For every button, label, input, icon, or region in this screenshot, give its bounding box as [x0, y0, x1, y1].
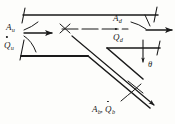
- upstream-flow-leader: [24, 36, 36, 52]
- label-branch-angle: θ: [148, 60, 152, 69]
- downstream-flow-symbol: Q: [113, 32, 120, 42]
- upstream-area-subscript: u: [12, 26, 15, 33]
- branch-flow-subscript: b: [112, 108, 115, 115]
- upstream-flow-symbol-group: Q: [4, 41, 11, 50]
- label-upstream-flow: Qu: [4, 41, 14, 50]
- downstream-area-leader: [131, 22, 146, 29]
- label-upstream-area: Au: [6, 23, 15, 32]
- upstream-flow-symbol: Q: [4, 40, 11, 50]
- label-downstream-area: Ad: [113, 14, 122, 23]
- branch-area-subscript: b: [98, 108, 101, 115]
- downstream-area-symbol: A: [113, 13, 119, 23]
- upstream-area-symbol: A: [6, 22, 12, 32]
- branch-flow-dot-icon: [107, 101, 109, 103]
- upstream-area-leader: [24, 22, 38, 30]
- downstream-flow-dot-icon: [115, 28, 117, 30]
- downstream-area-subscript: d: [119, 17, 122, 24]
- branch-flow-symbol: Q: [105, 104, 112, 114]
- label-downstream-flow: Qd: [113, 33, 123, 42]
- duct-branch-diagram: Au Qu Ad Qd Ab, Qb θ: [0, 0, 175, 124]
- branch-area-symbol: A: [92, 104, 98, 114]
- downstream-flow-symbol-group: Q: [113, 33, 120, 42]
- branch-flow-arrow: [72, 36, 154, 105]
- downstream-flow-subscript: d: [120, 36, 123, 43]
- branch-flow-symbol-group: Q: [105, 105, 112, 114]
- upstream-flow-dot-icon: [6, 36, 8, 38]
- branch-lower-wall: [107, 48, 143, 79]
- upstream-flow-subscript: u: [11, 44, 14, 51]
- label-branch-area-and-flow: Ab, Qb: [92, 105, 115, 114]
- upstream-bottom-left-tick: [20, 40, 24, 60]
- branch-upper-wall: [88, 56, 150, 108]
- downstream-area-tick: [145, 15, 150, 26]
- branch-angle-symbol: θ: [148, 59, 152, 69]
